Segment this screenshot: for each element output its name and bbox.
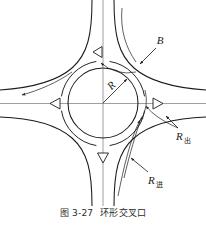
leader-lines (131, 48, 178, 172)
label-entry-radius-subscript: 进 (156, 181, 163, 189)
label-exit-radius-base: R (175, 130, 183, 142)
label-entry-radius-base: R (147, 174, 155, 186)
road-edge-southwest (0, 117, 92, 206)
caption-number: 图 3-27 (60, 206, 94, 219)
figure-container: B R R 出 R 进 图 3-27 环形交叉口 (0, 0, 206, 226)
flow-exit-southeast (124, 118, 141, 178)
caption-title: 环形交叉口 (100, 206, 146, 219)
circulating-edge-nw (62, 62, 97, 97)
figure-caption: 图 3-27 环形交叉口 (0, 206, 206, 226)
flow-entry-northeast (122, 8, 136, 62)
flow-exit-west (22, 72, 72, 95)
road-edge-northwest (0, 0, 92, 90)
south-triangle-icon (98, 153, 109, 163)
east-triangle-icon (153, 98, 163, 109)
north-triangle-icon (93, 47, 102, 58)
flow-entry-east (146, 106, 178, 128)
flow-arc-east (141, 90, 146, 120)
leader-line-entry-radius (131, 158, 148, 172)
label-exit-radius-subscript: 出 (184, 136, 191, 145)
leader-line-width-b (140, 48, 156, 64)
roundabout-diagram: B R R 出 R 进 (0, 0, 206, 206)
west-triangle-icon (50, 98, 60, 109)
label-width-b: B (157, 34, 164, 46)
label-entry-radius: R 进 (147, 174, 163, 189)
label-exit-radius: R 出 (175, 130, 191, 145)
